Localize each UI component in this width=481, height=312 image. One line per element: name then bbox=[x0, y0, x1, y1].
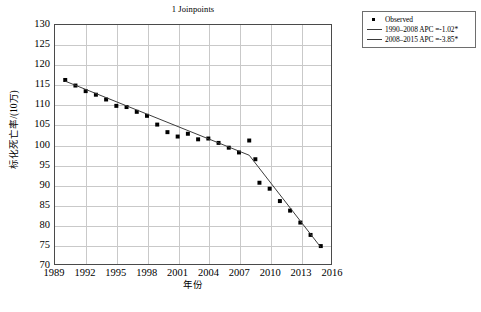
legend-marker-icon bbox=[367, 15, 382, 24]
observed-data-point bbox=[155, 123, 159, 127]
legend: Observed1990–2008 APC =-1.02*2008–2015 A… bbox=[362, 11, 476, 48]
x-axis-tick-labels: 1989199219951998200120042007201020132016 bbox=[54, 267, 332, 281]
legend-item: Observed bbox=[367, 15, 472, 24]
observed-data-point bbox=[165, 130, 169, 134]
observed-data-point bbox=[257, 181, 261, 185]
y-axis-tick-label: 75 bbox=[4, 240, 50, 251]
x-axis-title: 年份 bbox=[54, 280, 332, 291]
legend-item-label: 1990–2008 APC =-1.02* bbox=[385, 25, 458, 34]
legend-item-label: Observed bbox=[385, 15, 413, 24]
observed-data-point bbox=[114, 104, 118, 108]
x-axis-tick-label: 2016 bbox=[312, 267, 352, 279]
joinpoint-chart-figure: 1 Joinpoints 707580859095100105110115120… bbox=[0, 0, 481, 312]
legend-item: 2008–2015 APC =-3.85* bbox=[367, 35, 472, 44]
observed-data-point bbox=[176, 135, 180, 139]
legend-item: 1990–2008 APC =-1.02* bbox=[367, 25, 472, 34]
line-segment-icon bbox=[367, 39, 382, 40]
plot-area bbox=[54, 24, 332, 265]
observed-data-point bbox=[278, 199, 282, 203]
chart-title: 1 Joinpoints bbox=[54, 4, 332, 15]
y-axis-tick-label: 85 bbox=[4, 200, 50, 211]
y-axis-title: 标化死亡率/(10万) bbox=[9, 70, 20, 190]
legend-line-icon bbox=[367, 25, 382, 34]
observed-data-point bbox=[268, 187, 272, 191]
observed-data-point bbox=[247, 139, 251, 143]
y-axis-tick-label: 125 bbox=[4, 39, 50, 50]
series-layer bbox=[55, 25, 331, 264]
line-segment-icon bbox=[367, 29, 382, 30]
legend-item-label: 2008–2015 APC =-3.85* bbox=[385, 35, 458, 44]
trend-line bbox=[249, 155, 321, 247]
observed-data-point bbox=[196, 137, 200, 141]
legend-line-icon bbox=[367, 35, 382, 44]
y-axis-tick-labels: 707580859095100105110115120125130 bbox=[0, 24, 50, 265]
trend-line bbox=[65, 81, 249, 155]
y-axis-tick-label: 120 bbox=[4, 59, 50, 70]
y-axis-tick-label: 130 bbox=[4, 19, 50, 30]
square-marker-icon bbox=[372, 18, 375, 21]
y-axis-tick-label: 80 bbox=[4, 220, 50, 231]
observed-data-point bbox=[186, 132, 190, 136]
